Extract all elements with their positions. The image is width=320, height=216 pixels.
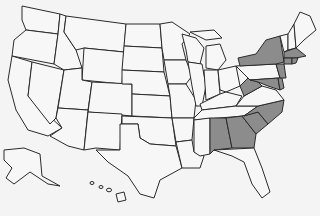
state-ak: [4, 148, 60, 186]
us-map: [0, 0, 320, 216]
state-pa: [236, 64, 280, 80]
state-oh: [218, 66, 240, 92]
state-nd: [124, 24, 162, 48]
state-wy: [82, 48, 124, 84]
state-me: [294, 12, 316, 48]
state-ri: [292, 58, 298, 64]
state-ms: [194, 118, 210, 156]
state-ct: [284, 58, 292, 64]
states-layer: [4, 6, 316, 202]
state-sd: [122, 46, 164, 72]
state-mo: [168, 84, 196, 118]
state-ny: [238, 36, 284, 66]
state-co: [88, 82, 132, 116]
state-hi: [116, 192, 126, 202]
hawaii-small-islands: [90, 182, 112, 192]
state-ks: [132, 94, 172, 118]
state-ar: [172, 118, 194, 142]
state-mi: [206, 44, 226, 70]
state-mt: [64, 16, 126, 52]
state-nm: [84, 112, 122, 150]
state-fl: [214, 148, 270, 198]
